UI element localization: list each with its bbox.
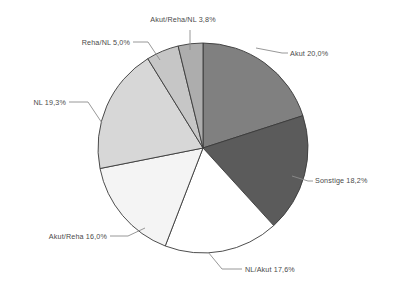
pie-chart-canvas: Akut 20,0%Sonstige 18,2%NL/Akut 17,6%Aku… bbox=[0, 0, 409, 292]
pie-label-nl: NL 19,3% bbox=[34, 98, 67, 107]
leader-line-nl-akut bbox=[208, 252, 242, 269]
leader-line-nl bbox=[69, 102, 102, 123]
pie-label-nl-akut: NL/Akut 17,6% bbox=[245, 265, 295, 274]
pie-slices-group bbox=[98, 43, 308, 253]
pie-label-akut-reha: Akut/Reha 16,0% bbox=[49, 232, 108, 241]
pie-label-akut: Akut 20,0% bbox=[290, 49, 329, 58]
pie-chart-figure: Akut 20,0%Sonstige 18,2%NL/Akut 17,6%Aku… bbox=[0, 0, 409, 292]
leader-line-akut bbox=[256, 48, 288, 53]
pie-label-reha-nl: Reha/NL 5,0% bbox=[82, 38, 131, 47]
pie-label-sonstige: Sonstige 18,2% bbox=[315, 176, 368, 185]
pie-label-akut-reha-nl: Akut/Reha/NL 3,8% bbox=[150, 15, 216, 24]
